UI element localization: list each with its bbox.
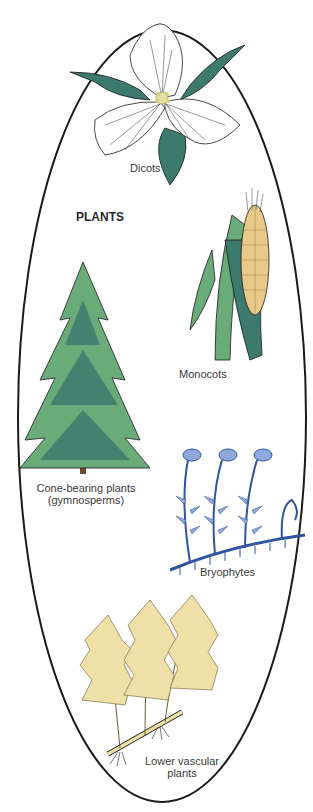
label-lower-vascular-line1: Lower vascular	[140, 755, 224, 767]
label-lower-vascular-line2: plants	[140, 767, 224, 779]
label-bryophytes: Bryophytes	[200, 566, 255, 578]
label-gymnosperms: Cone-bearing plants (gymnosperms)	[28, 482, 144, 506]
label-gymnosperms-line2: (gymnosperms)	[28, 494, 144, 506]
diagram-title: PLANTS	[76, 210, 124, 224]
label-gymnosperms-line1: Cone-bearing plants	[28, 482, 144, 494]
label-dicots: Dicots	[130, 162, 161, 174]
plants-diagram	[0, 0, 313, 812]
label-lower-vascular: Lower vascular plants	[140, 755, 224, 779]
label-monocots: Monocots	[179, 368, 227, 380]
